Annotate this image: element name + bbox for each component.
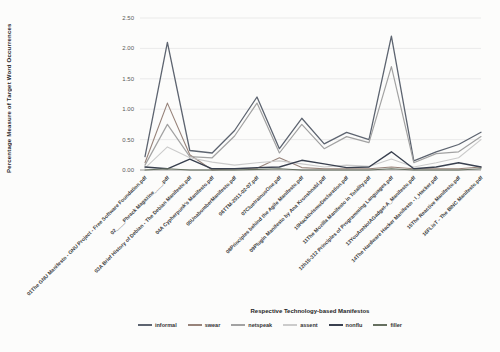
series-line-informal xyxy=(145,36,481,161)
y-tick-label: 2.00 xyxy=(122,45,134,51)
x-axis-label: 08Principles behind the Agile Manifesto.… xyxy=(224,174,304,254)
legend-item-swear: swear xyxy=(188,322,221,328)
legend-item-netspeak: netspeak xyxy=(231,322,272,328)
legend-swatch-nonflu xyxy=(329,324,343,326)
legend-swatch-assent xyxy=(283,324,297,326)
legend-label: nonflu xyxy=(346,322,363,328)
legend-label: informal xyxy=(155,322,177,328)
legend-swatch-swear xyxy=(188,324,202,326)
x-axis-label: 03A Brief History of Debian - The Debian… xyxy=(93,174,193,274)
legend-label: netspeak xyxy=(248,322,272,328)
legend-swatch-informal xyxy=(138,324,152,326)
y-tick-label: 2.50 xyxy=(122,15,134,21)
plot-area: 0.000.501.001.502.002.5001The GNU Manife… xyxy=(0,0,500,352)
y-tick-label: 0.00 xyxy=(122,167,134,173)
legend-item-informal: informal xyxy=(138,322,177,328)
legend-swatch-filler xyxy=(373,324,387,326)
x-axis-label: 14The Hardware Hacker Manifesto - I_Hack… xyxy=(350,174,439,263)
x-axis-label: 06TTM-2011-02-07.pdf xyxy=(217,174,260,217)
legend-item-assent: assent xyxy=(283,322,317,328)
legend-swatch-netspeak xyxy=(231,324,245,326)
y-tick-label: 1.50 xyxy=(122,76,134,82)
chart-legend: informalswearnetspeakassentnonflufiller xyxy=(90,322,450,328)
y-tick-label: 1.00 xyxy=(122,106,134,112)
legend-label: filler xyxy=(390,322,402,328)
x-axis-title: Respective Technology-based Manifestos xyxy=(150,308,470,314)
x-axis-label: 07CluetrainusOne.pdf xyxy=(240,174,283,217)
legend-label: swear xyxy=(205,322,221,328)
legend-item-nonflu: nonflu xyxy=(329,322,363,328)
line-chart: Percentage Measure of Target Word Occurr… xyxy=(0,0,500,352)
legend-label: assent xyxy=(300,322,317,328)
series-line-netspeak xyxy=(145,67,481,166)
y-tick-label: 0.50 xyxy=(122,137,134,143)
legend-item-filler: filler xyxy=(373,322,402,328)
